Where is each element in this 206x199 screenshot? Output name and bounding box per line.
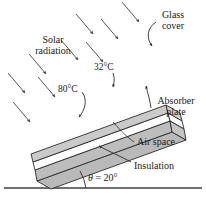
solar-radiation-arrows: [8, 2, 139, 122]
absorber-plate-label: Absorber plate: [148, 95, 204, 117]
angle-equals: =: [93, 172, 104, 183]
glass-temperature-label: 32°C: [94, 62, 114, 73]
angle-value: 20°: [104, 172, 118, 183]
glass-cover-line2: cover: [151, 20, 195, 31]
solar-collector-figure: Solar radiation Glass cover 32°C 80°C Ab…: [0, 0, 206, 199]
air-space-label: Air space: [137, 136, 175, 147]
glass-temp-leader: [113, 73, 114, 87]
absorber-plate-line2: plate: [148, 106, 204, 117]
tilt-angle-label: θ = 20°: [88, 172, 118, 183]
absorber-temp-leader: [79, 92, 85, 117]
absorber-plate-line1: Absorber: [148, 95, 204, 106]
absorber-temperature-label: 80°C: [58, 84, 78, 95]
glass-cover-line1: Glass: [151, 9, 195, 20]
solar-radiation-line2: radiation: [26, 45, 80, 56]
solar-radiation-line1: Solar: [26, 34, 80, 45]
insulation-label: Insulation: [134, 160, 174, 171]
solar-radiation-label: Solar radiation: [26, 34, 80, 56]
glass-cover-label: Glass cover: [151, 9, 195, 31]
